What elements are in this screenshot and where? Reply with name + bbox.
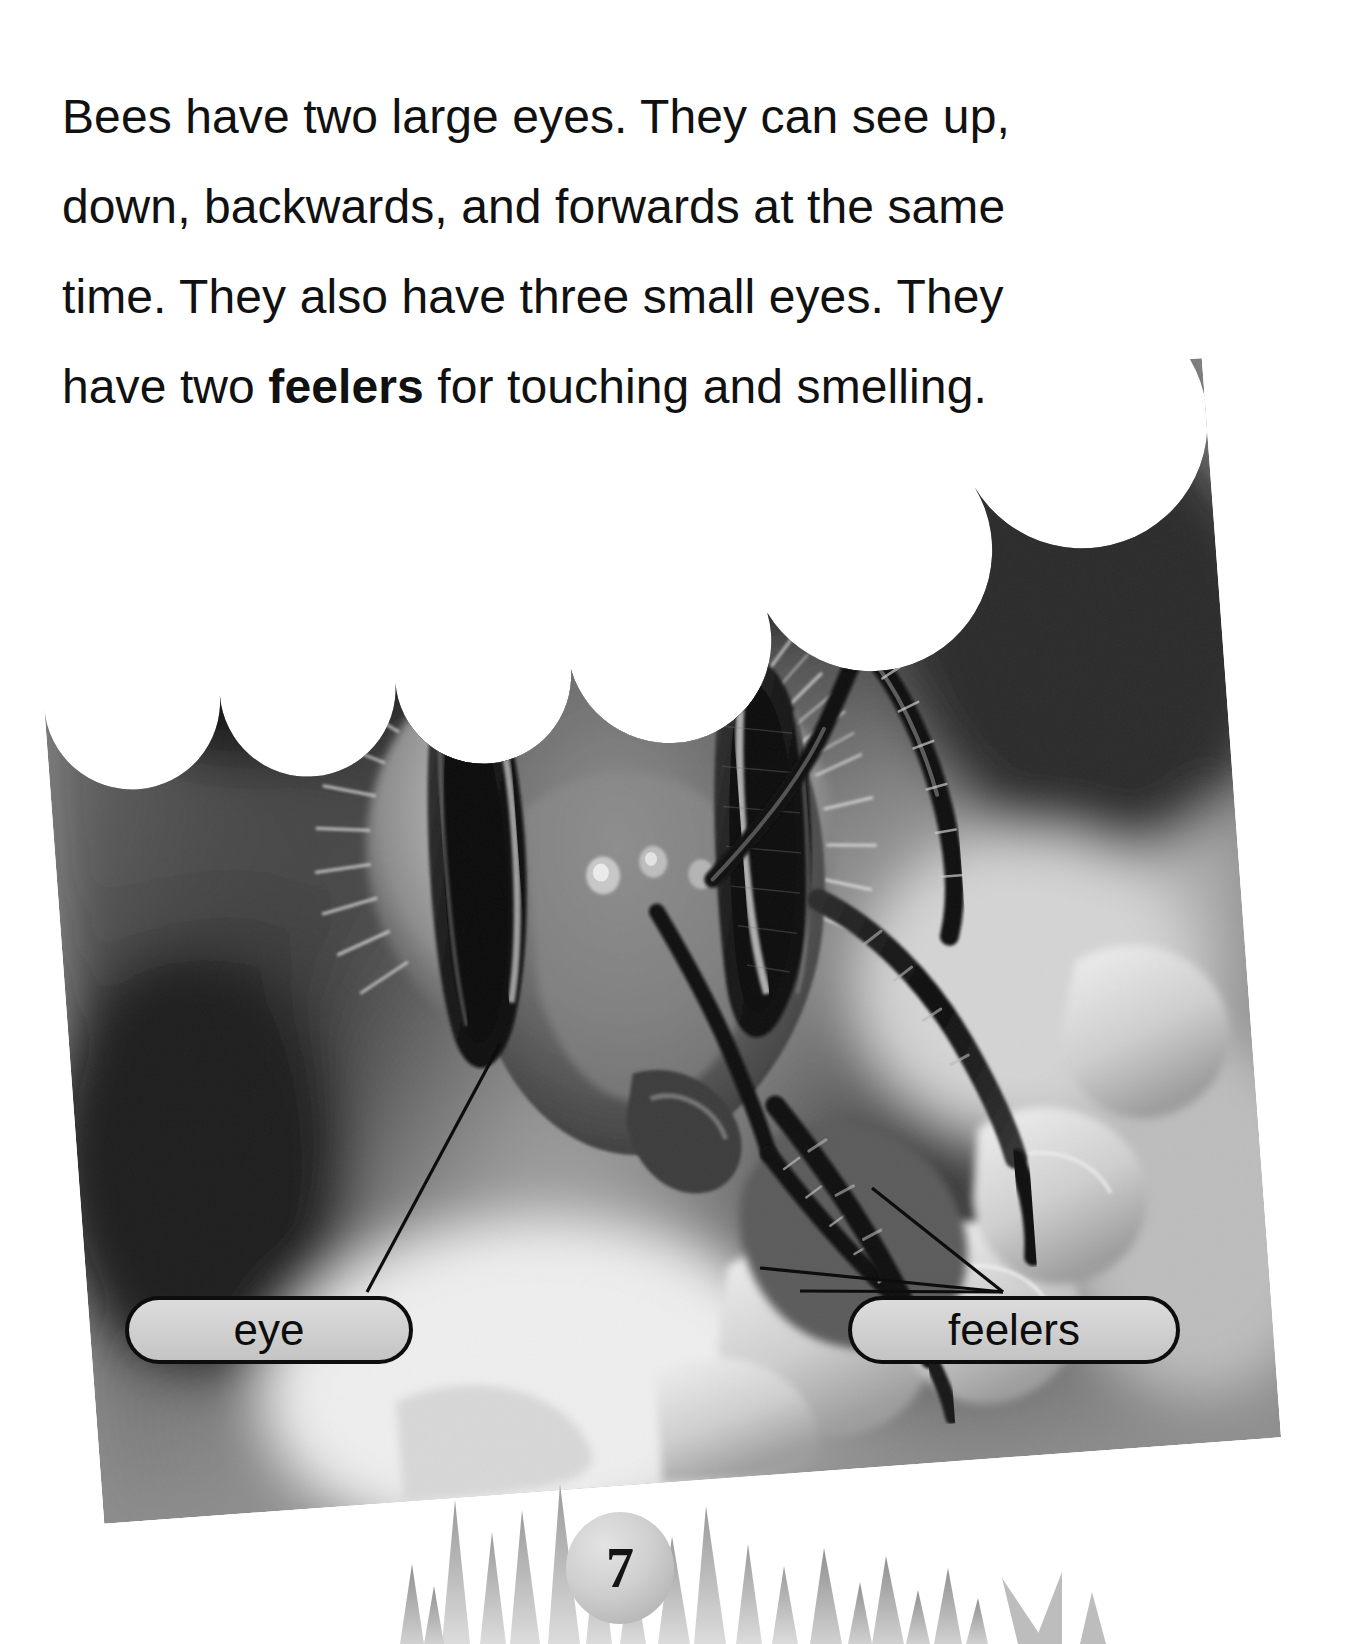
callout-eye[interactable]: eye bbox=[125, 1296, 413, 1364]
callout-eye-label: eye bbox=[234, 1308, 305, 1352]
page-number-badge: 7 bbox=[566, 1512, 674, 1624]
callout-feelers[interactable]: feelers bbox=[848, 1296, 1180, 1364]
callout-feelers-label: feelers bbox=[948, 1308, 1080, 1352]
grass-decoration bbox=[0, 1440, 1347, 1644]
grass-blades-crossing bbox=[1002, 1572, 1106, 1644]
page-number-value: 7 bbox=[606, 1536, 634, 1600]
